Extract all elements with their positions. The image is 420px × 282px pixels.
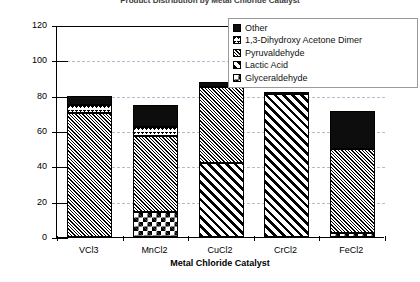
legend-item[interactable]: Other	[233, 22, 414, 34]
x-axis-label-fecl2: FeCl2	[318, 245, 384, 255]
bar-segment-other[interactable]	[330, 111, 375, 149]
x-axis-tick	[254, 236, 255, 241]
y-axis-tick	[52, 97, 68, 98]
y-axis-tick	[52, 167, 68, 168]
legend-label: 1,3-Dihydroxy Acetone Dimer	[245, 35, 362, 45]
y-axis-tick	[52, 203, 68, 204]
x-axis-label-vcl3: VCl3	[56, 245, 122, 255]
y-axis-label: 100	[13, 56, 47, 65]
x-axis-tick	[188, 236, 189, 241]
chart-title: Product Distribution by Metal Chloride C…	[0, 0, 420, 5]
legend-swatch-icon	[233, 24, 241, 32]
legend-item[interactable]: 1,3-Dihydroxy Acetone Dimer	[233, 34, 414, 46]
y-axis-tick	[52, 61, 68, 62]
chart-container: Product Distribution by Metal Chloride C…	[0, 0, 420, 282]
y-axis-label: 120	[13, 21, 47, 30]
bar-segment-pyruvaldehyde[interactable]	[67, 113, 112, 237]
x-axis-title: Metal Chloride Catalyst	[56, 258, 384, 268]
bar-segment-lactic-acid[interactable]	[199, 163, 244, 237]
x-axis-tick	[319, 236, 320, 241]
bar-segment-other[interactable]	[67, 96, 112, 105]
x-axis-tick	[385, 236, 386, 241]
y-axis-tick	[52, 26, 68, 27]
bar-segment-1-3-dihydroxy-acetone-dimer[interactable]	[67, 105, 112, 114]
y-axis-label: 80	[13, 92, 47, 101]
x-axis-tick	[57, 236, 58, 241]
bar-segment-glyceraldehyde[interactable]	[330, 233, 375, 237]
legend-label: Other	[245, 23, 268, 33]
legend-swatch-icon	[233, 61, 241, 69]
x-axis-label-mncl2: MnCl2	[122, 245, 188, 255]
bar-segment-lactic-acid[interactable]	[264, 94, 309, 237]
chart-legend: Other1,3-Dihydroxy Acetone DimerPyruvald…	[228, 18, 418, 88]
legend-swatch-icon	[233, 49, 241, 57]
x-axis-label-crcl2: CrCl2	[253, 245, 319, 255]
legend-swatch-icon	[233, 36, 241, 44]
bar-segment-pyruvaldehyde[interactable]	[133, 136, 178, 212]
y-axis-tick	[52, 238, 68, 239]
bar-vcl3[interactable]	[67, 25, 112, 237]
bar-segment-glyceraldehyde[interactable]	[133, 212, 178, 237]
bar-segment-pyruvaldehyde[interactable]	[199, 87, 244, 163]
legend-label: Pyruvaldehyde	[245, 48, 305, 58]
y-axis-label: 0	[13, 233, 47, 242]
bar-segment-pyruvaldehyde[interactable]	[330, 149, 375, 234]
legend-item[interactable]: Glyceraldehyde	[233, 72, 414, 84]
legend-label: Lactic Acid	[245, 60, 288, 70]
y-axis-label: 20	[13, 198, 47, 207]
x-axis-label-cucl2: CuCl2	[187, 245, 253, 255]
legend-label: Glyceraldehyde	[245, 73, 308, 83]
bar-segment-1-3-dihydroxy-acetone-dimer[interactable]	[133, 127, 178, 136]
legend-item[interactable]: Pyruvaldehyde	[233, 47, 414, 59]
x-axis-tick	[123, 236, 124, 241]
legend-swatch-icon	[233, 74, 241, 82]
y-axis-label: 60	[13, 127, 47, 136]
legend-item[interactable]: Lactic Acid	[233, 59, 414, 71]
y-axis-label: 40	[13, 162, 47, 171]
bar-mncl2[interactable]	[133, 25, 178, 237]
bar-segment-other[interactable]	[264, 92, 309, 94]
y-axis-tick	[52, 132, 68, 133]
bar-segment-other[interactable]	[133, 105, 178, 127]
